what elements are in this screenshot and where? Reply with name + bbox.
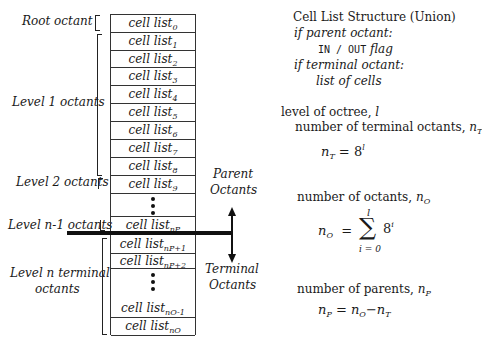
table-row: cell list5 <box>111 104 195 122</box>
table-row-label: cell listnO-1 <box>111 300 195 317</box>
level-of-octree-label: level of octree, l <box>281 105 379 119</box>
flag-line: IN / OUT flag <box>318 42 393 56</box>
if-parent-label: if parent octant: <box>294 26 393 40</box>
table-row: cell list4 <box>111 86 195 104</box>
level1-bracket <box>97 34 102 176</box>
level1-label: Level 1 octants <box>12 95 105 109</box>
equation-nT: nT = 8l <box>321 144 365 159</box>
table-row: cell list6 <box>111 122 195 140</box>
table-row: cell list0 <box>111 15 195 33</box>
sigma-icon: ∑ <box>359 215 376 239</box>
table-row: cell list1 <box>111 33 195 51</box>
table-row: cell listnP+1 <box>111 235 195 254</box>
up-arrow-icon <box>228 207 236 216</box>
table-row: cell list7 <box>111 140 195 158</box>
ellipsis-block-row: cell listnO-1 <box>111 269 195 318</box>
level-n-label-line2: octants <box>35 282 80 296</box>
root-bracket <box>95 15 100 31</box>
if-terminal-label: if terminal octant: <box>294 58 404 72</box>
table-row: cell list2 <box>111 51 195 68</box>
parent-terminal-divider <box>67 231 233 235</box>
union-title: Cell List Structure (Union) <box>293 10 456 24</box>
vertical-ellipsis-icon <box>151 273 155 291</box>
sum-lower-limit: i = 0 <box>359 244 381 254</box>
level2-bracket <box>98 178 103 189</box>
arrow-shaft <box>231 214 233 256</box>
level2-label: Level 2 octants <box>16 175 109 189</box>
sum-term: 8i <box>383 221 394 236</box>
num-octants-label: number of octants, nO <box>297 190 430 204</box>
table-row: cell listnP+2 <box>111 254 195 269</box>
table-row: cell list8 <box>111 158 195 176</box>
level-n-label-line1: Level n terminal <box>10 266 110 280</box>
parent-octants-label-line2: Octants <box>210 183 257 197</box>
equation-nP: nP = nO−nT <box>318 302 391 317</box>
vertical-ellipsis-icon <box>151 197 155 215</box>
level-n-bracket <box>102 238 107 335</box>
cell-list-table: cell list0 cell list1 cell list2 cell li… <box>110 14 196 335</box>
level-n1-label: Level n-1 octants <box>8 218 112 232</box>
root-octant-label: Root octant <box>22 14 93 28</box>
ellipsis-row <box>111 194 195 217</box>
table-row: cell list3 <box>111 68 195 86</box>
num-parents-label: number of parents, nP <box>297 282 431 296</box>
terminal-octants-label-line2: Octants <box>209 278 256 292</box>
table-row: cell list9 <box>111 176 195 194</box>
list-of-cells-label: list of cells <box>316 74 382 88</box>
table-row: cell listnO <box>111 318 195 336</box>
terminal-octants-label-line1: Terminal <box>205 262 259 276</box>
parent-octants-label-line1: Parent <box>213 167 253 181</box>
num-terminal-label: number of terminal octants, nT <box>295 120 482 134</box>
equation-nO-lhs: nO = <box>318 223 352 238</box>
level-n1-bracket <box>100 220 105 231</box>
